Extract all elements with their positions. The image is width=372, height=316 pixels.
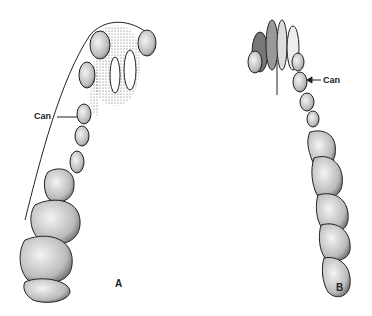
panel-b-drawing <box>248 20 350 297</box>
canine-label-b: Can <box>323 75 340 85</box>
panel-a-drawing <box>20 22 156 302</box>
panel-label-b: B <box>336 282 343 293</box>
panel-label-a: A <box>115 278 122 289</box>
dental-diagram: Can A Can B <box>0 0 372 316</box>
tooth-illustration <box>0 0 372 316</box>
canine-label-a: Can <box>34 111 51 121</box>
